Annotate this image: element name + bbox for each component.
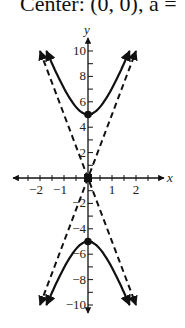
y-tick-label: 4 (80, 119, 87, 134)
y-tick-label: 6 (80, 94, 87, 109)
y-tick-label: −4 (72, 221, 86, 236)
x-tick-label: −2 (29, 182, 43, 197)
y-tick-label: 8 (80, 68, 87, 83)
vertex-point (84, 111, 92, 119)
x-tick-label: 2 (133, 182, 140, 197)
center-point (84, 174, 92, 182)
y-tick-label: −2 (72, 195, 86, 210)
y-tick-label: 10 (73, 43, 86, 58)
y-tick-label: −10 (66, 297, 86, 312)
x-axis-label: x (166, 170, 173, 185)
y-tick-label: −6 (72, 246, 86, 261)
vertex-point (84, 238, 92, 246)
x-tick-label: −1 (53, 182, 67, 197)
x-tick-label: 1 (109, 182, 116, 197)
y-axis-label: y (82, 22, 90, 37)
y-tick-label: −8 (72, 272, 86, 287)
hyperbola-chart: −2−112−10−8−6−4−2246810xy (0, 0, 185, 328)
